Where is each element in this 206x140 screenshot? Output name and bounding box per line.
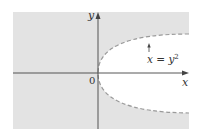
curve-label-exponent: 2	[174, 53, 178, 61]
region-diagram: y x 0 x = y2	[0, 0, 206, 140]
curve-label: x = y2	[147, 53, 179, 65]
y-axis-label: y	[87, 9, 95, 22]
x-axis-label: x	[182, 76, 189, 89]
origin-label: 0	[89, 75, 95, 86]
curve-label-text: x = y	[147, 53, 175, 65]
